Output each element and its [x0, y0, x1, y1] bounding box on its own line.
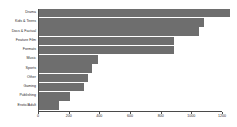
bar-chart: Drama Kids & Teens Docs & Factual Featur… [0, 0, 237, 127]
category-label: Drama [25, 11, 36, 15]
category-label: Feature Film [16, 39, 36, 43]
category-label: Kids & Teens [15, 21, 36, 25]
table-row[interactable]: Erotic/Adult [38, 101, 222, 109]
x-tick-label: 1200 [218, 115, 226, 119]
bar-formats[interactable] [38, 46, 174, 54]
table-row[interactable]: Sports [38, 64, 222, 72]
table-row[interactable]: Feature Film [38, 37, 222, 45]
table-row[interactable]: Music [38, 55, 222, 63]
plot-area: Drama Kids & Teens Docs & Factual Featur… [38, 9, 222, 111]
category-label: Formats [23, 48, 36, 52]
bar-kids-and-teens[interactable] [38, 18, 204, 26]
x-tick-label: 400 [96, 115, 102, 119]
bar-docs-and-factual[interactable] [38, 27, 199, 35]
category-label: Other [27, 76, 36, 80]
table-row[interactable]: Kids & Teens [38, 18, 222, 26]
bar-drama[interactable] [38, 9, 230, 17]
table-row[interactable]: Publishing [38, 92, 222, 100]
category-label: Docs & Factual [12, 30, 36, 34]
bar-gaming[interactable] [38, 83, 84, 91]
bar-sports[interactable] [38, 64, 92, 72]
table-row[interactable]: Gaming [38, 83, 222, 91]
x-tick-label: 0 [37, 115, 39, 119]
category-label: Publishing [19, 95, 36, 99]
category-label: Gaming [23, 85, 36, 89]
x-tick-label: 200 [66, 115, 72, 119]
table-row[interactable]: Formats [38, 46, 222, 54]
category-label: Erotic/Adult [18, 104, 36, 108]
x-axis-ticks: 0 200 400 600 800 1000 1200 [38, 112, 222, 126]
y-axis-line [38, 9, 39, 111]
bar-publishing[interactable] [38, 92, 70, 100]
bar-feature-film[interactable] [38, 37, 174, 45]
category-label: Music [27, 58, 36, 62]
table-row[interactable]: Drama [38, 9, 222, 17]
category-label: Sports [26, 67, 36, 71]
bar-erotic-adult[interactable] [38, 101, 59, 109]
x-tick-label: 1000 [187, 115, 195, 119]
x-tick-label: 800 [158, 115, 164, 119]
x-tick-label: 600 [127, 115, 133, 119]
table-row[interactable]: Docs & Factual [38, 27, 222, 35]
bar-music[interactable] [38, 55, 98, 63]
bar-other[interactable] [38, 74, 88, 82]
table-row[interactable]: Other [38, 74, 222, 82]
